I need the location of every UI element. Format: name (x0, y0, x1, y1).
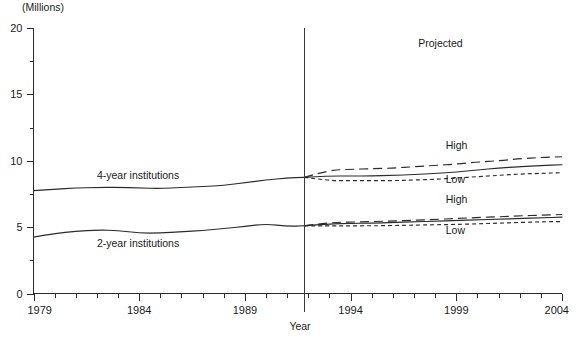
y-tick-label: 0 (16, 288, 22, 300)
annotation-4-year-institutions: 4-year institutions (97, 169, 179, 181)
chart-canvas: (Millions) 05101520 19791984198919941999… (0, 0, 583, 342)
annotation-projected: Projected (418, 37, 463, 49)
y-tick-label: 10 (10, 155, 22, 167)
x-tick-label: 1989 (233, 304, 257, 316)
annotation-high: High (446, 139, 468, 151)
y-axis-unit-label: (Millions) (22, 1, 64, 13)
x-tick-label: 1999 (444, 304, 468, 316)
annotation-low: Low (446, 173, 466, 185)
x-tick-label: 1979 (28, 304, 52, 316)
enrollment-projection-chart: (Millions) 05101520 19791984198919941999… (0, 0, 583, 342)
x-axis-title: Year (289, 320, 311, 332)
x-tick-label: 1984 (127, 304, 151, 316)
x-tick-label: 1994 (338, 304, 362, 316)
annotation-2-year-institutions: 2-year institutions (97, 237, 179, 249)
x-tick-label: 2004 (545, 304, 569, 316)
y-tick-label: 20 (10, 22, 22, 34)
y-tick-label: 15 (10, 88, 22, 100)
annotation-low: Low (446, 224, 466, 236)
y-tick-label: 5 (16, 221, 22, 233)
chart-background (0, 0, 583, 342)
annotation-high: High (446, 193, 468, 205)
